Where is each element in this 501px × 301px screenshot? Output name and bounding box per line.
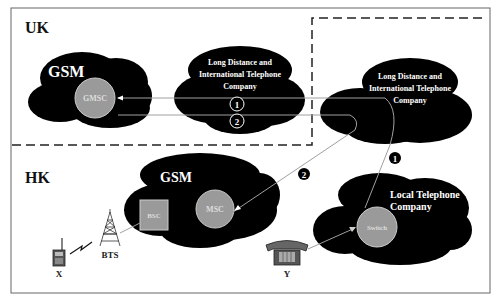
svg-text:2: 2 <box>235 117 240 127</box>
uk-gsm-label: GSM <box>48 63 84 80</box>
mobile-label: X <box>56 269 63 279</box>
local-label-1: Local Telephone <box>390 189 460 200</box>
svg-text:2: 2 <box>302 170 307 180</box>
bts-label: BTS <box>101 250 118 260</box>
local-label-2: Company <box>390 201 432 212</box>
telephone-label: Y <box>284 269 291 279</box>
region-label-uk: UK <box>25 19 50 36</box>
uk-ld-label-2: International Telephone <box>199 70 281 79</box>
step-marker-1-outline: 1 <box>230 97 244 111</box>
diagram-canvas: UK HK GSM GMSC Long Distance and Interna… <box>0 0 501 301</box>
svg-text:1: 1 <box>235 100 240 110</box>
bsc-label: BSC <box>147 212 161 220</box>
gmsc-label: GMSC <box>83 94 107 103</box>
intl-ld-label-2: International Telephone <box>369 84 451 93</box>
step-marker-2-filled: 2 <box>298 168 310 180</box>
uk-ld-label-1: Long Distance and <box>208 58 273 67</box>
region-label-hk: HK <box>25 169 50 186</box>
step-marker-2-outline: 2 <box>230 114 244 128</box>
intl-ld-label-1: Long Distance and <box>378 72 443 81</box>
switch-label: Switch <box>367 224 387 232</box>
uk-ld-label-3: Company <box>223 82 256 91</box>
hk-gsm-label: GSM <box>160 170 192 185</box>
msc-label: MSC <box>206 205 224 214</box>
step-marker-1-filled: 1 <box>389 152 401 164</box>
svg-text:1: 1 <box>393 154 398 164</box>
intl-ld-label-3: Company <box>393 96 426 105</box>
